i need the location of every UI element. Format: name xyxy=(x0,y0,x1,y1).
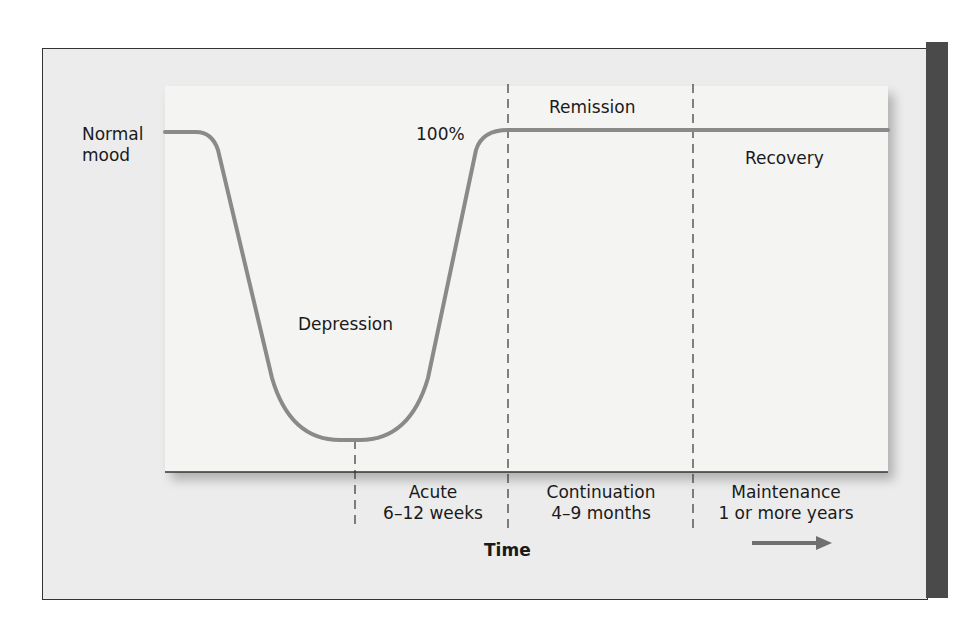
mood-curve xyxy=(165,130,888,440)
x-axis-title: Time xyxy=(484,540,531,561)
recovery-label: Recovery xyxy=(745,148,824,169)
time-arrow-icon xyxy=(816,536,832,550)
peak-label: 100% xyxy=(416,124,465,145)
remission-label: Remission xyxy=(549,97,635,118)
normal-mood-label: Normal mood xyxy=(82,124,144,166)
phase-maintenance: Maintenance 1 or more years xyxy=(698,482,874,524)
phase-acute: Acute 6–12 weeks xyxy=(360,482,506,524)
depression-label: Depression xyxy=(298,314,393,335)
phase-continuation: Continuation 4–9 months xyxy=(512,482,690,524)
